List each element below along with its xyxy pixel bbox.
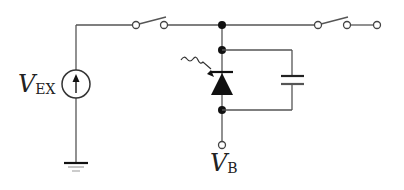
switch-right (315, 17, 351, 29)
label-v-b: VB (210, 149, 238, 177)
junction-node-top (218, 21, 226, 29)
light-icon (181, 57, 214, 77)
switch-right-contact-b (344, 22, 351, 29)
photodiode (211, 72, 233, 95)
voltage-source (62, 70, 90, 98)
switch-left-contact-b (161, 22, 168, 29)
switch-left-contact-a (133, 22, 140, 29)
switch-right-contact-a (315, 22, 322, 29)
capacitor (281, 76, 304, 84)
label-v-ex: VEX (18, 70, 56, 98)
right-terminal (374, 22, 381, 29)
switch-left (133, 17, 168, 29)
vb-terminal (219, 142, 226, 149)
ground-icon (64, 163, 88, 171)
diode-triangle (211, 73, 233, 95)
circuit-diagram: VEX VB (0, 0, 404, 190)
